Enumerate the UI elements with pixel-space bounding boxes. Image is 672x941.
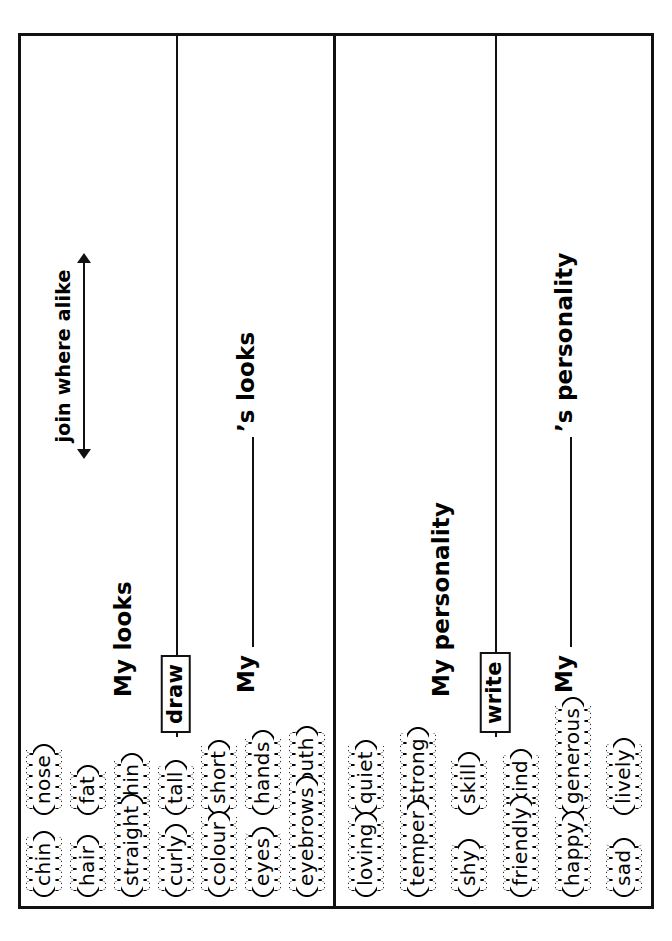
fill-in-blank-looks[interactable] bbox=[252, 437, 254, 647]
divider-personality bbox=[495, 33, 497, 737]
panel-body-personality: My personality write My ’s personality bbox=[336, 33, 654, 737]
prompt-my-personality: My ’s personality bbox=[551, 252, 577, 693]
word-bubble-group-personality: quietstrongskillkindgenerouslivelyloving… bbox=[336, 741, 654, 903]
word-bubble[interactable]: straight bbox=[117, 794, 147, 897]
word-bank-looks: nosefatthintallshorthandsmouthchinhairst… bbox=[18, 737, 333, 909]
word-bubble[interactable]: eyes bbox=[248, 826, 278, 896]
prompt-suffix-personality: ’s personality bbox=[551, 252, 577, 432]
worksheet-sheet: nosefatthintallshorthandsmouthchinhairst… bbox=[18, 33, 654, 909]
word-bubble[interactable]: sad bbox=[609, 838, 639, 897]
prompt-prefix-personality: My bbox=[551, 655, 577, 693]
word-bubble[interactable]: friendly bbox=[506, 795, 536, 896]
tag-draw: draw bbox=[160, 654, 191, 732]
word-bubble[interactable]: happy bbox=[558, 810, 588, 896]
arrow-shaft bbox=[83, 260, 85, 452]
word-bubble[interactable]: loving bbox=[351, 812, 381, 897]
panel-body-looks: My looks join where alike draw My ’s loo… bbox=[18, 33, 333, 737]
word-bubble[interactable]: curly bbox=[161, 823, 191, 896]
join-where-alike-label: join where alike bbox=[52, 269, 74, 442]
word-bubble-group-looks: nosefatthintallshorthandsmouthchinhairst… bbox=[18, 741, 333, 903]
prompt-suffix-looks: ’s looks bbox=[233, 331, 259, 432]
word-bubble[interactable]: chin bbox=[29, 831, 59, 897]
word-bubble[interactable]: short bbox=[204, 739, 234, 814]
word-bubble[interactable]: hair bbox=[73, 834, 103, 896]
fill-in-blank-personality[interactable] bbox=[570, 437, 572, 647]
word-bank-personality: quietstrongskillkindgenerouslivelyloving… bbox=[336, 737, 654, 909]
panel-personality: quietstrongskillkindgenerouslivelyloving… bbox=[336, 33, 654, 909]
divider-looks bbox=[176, 33, 178, 737]
double-arrow-icon bbox=[77, 253, 91, 459]
word-bubble[interactable]: nose bbox=[29, 743, 59, 814]
word-bubble[interactable]: quiet bbox=[351, 739, 381, 814]
panel-looks: nosefatthintallshorthandsmouthchinhairst… bbox=[18, 33, 336, 909]
word-bubble[interactable]: skill bbox=[454, 752, 484, 815]
word-bubble[interactable]: lively bbox=[609, 737, 639, 814]
word-bubble[interactable]: hands bbox=[248, 730, 278, 815]
word-bubble[interactable]: eyebrows bbox=[292, 775, 322, 896]
prompt-prefix-looks: My bbox=[233, 655, 259, 693]
worksheet-canvas: nosefatthintallshorthandsmouthchinhairst… bbox=[0, 0, 672, 941]
section-title-my-looks: My looks bbox=[110, 581, 136, 697]
prompt-my-looks: My ’s looks bbox=[233, 331, 259, 692]
word-bubble[interactable]: shy bbox=[454, 838, 484, 896]
arrow-head-right-icon bbox=[77, 253, 91, 263]
section-title-my-personality: My personality bbox=[428, 501, 454, 696]
word-bubble[interactable]: temper bbox=[403, 799, 433, 896]
word-bubble[interactable]: fat bbox=[73, 764, 103, 814]
word-bubble[interactable]: tall bbox=[161, 760, 191, 815]
join-where-alike-annotation: join where alike bbox=[52, 253, 91, 459]
tag-write: write bbox=[480, 652, 511, 733]
word-bubble[interactable]: colour bbox=[204, 810, 234, 896]
